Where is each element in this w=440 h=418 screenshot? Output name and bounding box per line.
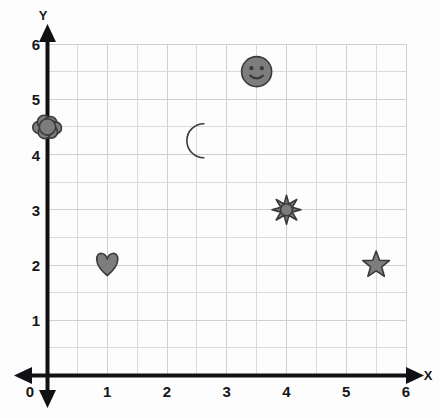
data-point-cloud xyxy=(33,115,62,138)
x-axis-arrow-left xyxy=(14,367,32,384)
coordinate-plane-figure: 123456 123456 0 X Y xyxy=(0,0,440,418)
y-axis-arrow-down xyxy=(39,390,56,408)
x-axis-arrow-right xyxy=(406,367,424,384)
origin-label: 0 xyxy=(26,383,34,400)
plot-canvas: 123456 123456 0 X Y xyxy=(0,0,440,418)
x-tick-label: 1 xyxy=(103,383,111,400)
x-tick-label: 4 xyxy=(282,383,291,400)
y-tick-labels: 123456 xyxy=(32,36,41,329)
axes xyxy=(14,24,424,408)
cloud-icon xyxy=(33,115,62,138)
x-tick-label: 6 xyxy=(402,383,410,400)
data-point-moon xyxy=(187,124,204,158)
y-tick-label: 6 xyxy=(32,36,40,53)
x-tick-label: 5 xyxy=(342,383,350,400)
y-tick-label: 5 xyxy=(32,91,40,108)
data-point-heart xyxy=(97,253,118,275)
moon-icon xyxy=(187,124,204,158)
x-tick-labels: 123456 xyxy=(103,383,410,400)
heart-icon xyxy=(97,253,118,275)
grid xyxy=(48,44,407,376)
y-axis-arrow-up xyxy=(39,24,56,42)
y-tick-label: 2 xyxy=(32,257,40,274)
y-tick-label: 4 xyxy=(32,147,41,164)
shape-markers xyxy=(33,57,390,277)
x-axis-title: X xyxy=(424,368,433,383)
x-tick-label: 3 xyxy=(223,383,231,400)
x-tick-label: 2 xyxy=(163,383,171,400)
sun-icon xyxy=(272,195,301,224)
data-point-sun xyxy=(272,195,301,224)
data-point-smiley xyxy=(242,57,272,87)
smiley-icon xyxy=(242,57,272,87)
y-axis-title: Y xyxy=(39,8,48,23)
y-tick-label: 3 xyxy=(32,202,40,219)
y-tick-label: 1 xyxy=(32,312,40,329)
